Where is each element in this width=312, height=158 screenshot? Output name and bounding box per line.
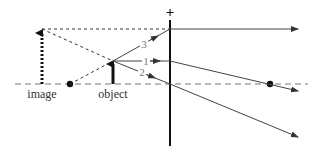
ray-3-label: 3 [141, 38, 147, 50]
ray-2-label: 2 [139, 66, 145, 78]
ray-diagram: + 3 1 2 image object [0, 0, 312, 158]
ray-3-arrow-mid [150, 36, 158, 40]
ray-1-refracted [170, 61, 298, 91]
ray-2-refracted [170, 84, 298, 137]
image-label: image [27, 87, 56, 101]
virtual-ray-diagonal [42, 29, 113, 61]
ray-2-arrow-mid [145, 74, 155, 78]
object-label: object [98, 87, 128, 101]
virtual-ray-focal [70, 61, 113, 84]
lens-sign: + [166, 4, 175, 20]
